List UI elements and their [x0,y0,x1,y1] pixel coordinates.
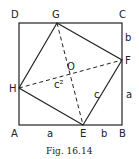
label-b: B [119,128,126,139]
side-a-bottom: a [47,128,53,139]
label-g: G [52,9,60,20]
side-b-bottom: b [101,128,107,139]
label-f: F [125,55,131,66]
label-d: D [11,9,19,20]
diagram: D G C F H A E B O a b b a c c² Fig. 16.1… [0,0,139,159]
side-c: c [94,89,100,100]
label-e: E [80,128,86,139]
label-a: A [11,128,18,139]
side-a-right: a [126,89,132,100]
figure-caption: Fig. 16.14 [46,146,93,156]
label-h: H [9,83,17,94]
side-b-right: b [125,32,131,43]
label-o: O [67,61,75,72]
label-c: C [119,9,126,20]
area-c2: c² [54,79,64,90]
